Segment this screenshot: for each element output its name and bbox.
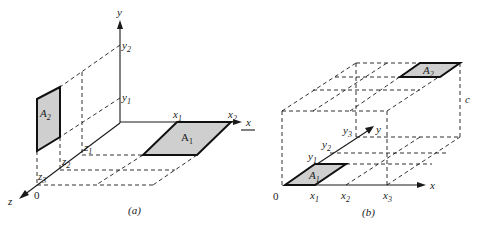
x-axis-b-arrow-icon (417, 182, 426, 188)
y-axis-label: y (116, 6, 122, 18)
panel-a-caption: (a) (128, 204, 141, 217)
tick-z3: z3 (37, 170, 46, 185)
x-axis-label: x (245, 116, 251, 128)
height-c-label: c (465, 93, 470, 105)
origin-label-b: 0 (273, 190, 279, 202)
tick-z2: z2 (61, 155, 70, 170)
tick-x3-b: x3 (382, 189, 392, 204)
panel-b-caption: (b) (362, 206, 375, 219)
x-axis-b-label: x (429, 179, 435, 191)
tick-y1: y1 (121, 91, 131, 106)
panel-a: y x z 0 y2 y1 x1 x2 z1 z2 z3 A2 A1 (a) (7, 6, 251, 217)
panel-b: 0 x y c x1 x2 x3 y1 y2 y3 A1 A2 (b) (241, 63, 470, 219)
y-axis-b-arrow-icon (365, 126, 374, 134)
tick-x1-b: x1 (309, 189, 319, 204)
tick-x2: x2 (227, 108, 237, 123)
origin-label: 0 (34, 189, 40, 201)
tick-y1-b: y1 (307, 150, 317, 165)
figure: y x z 0 y2 y1 x1 x2 z1 z2 z3 A2 A1 (a) (0, 0, 482, 225)
tick-z1: z1 (83, 141, 92, 156)
tick-x1: x1 (172, 108, 182, 123)
y-axis-arrow-icon (117, 20, 123, 29)
tick-x2-b: x2 (340, 189, 350, 204)
z-axis-label: z (7, 195, 13, 207)
tick-y2-b: y2 (321, 138, 331, 153)
panel-b-guides (282, 63, 460, 185)
tick-y3-b: y3 (342, 124, 352, 139)
z-axis-arrow-icon (19, 190, 29, 199)
y-axis-b-label: y (375, 123, 381, 135)
tick-y2: y2 (121, 39, 131, 54)
